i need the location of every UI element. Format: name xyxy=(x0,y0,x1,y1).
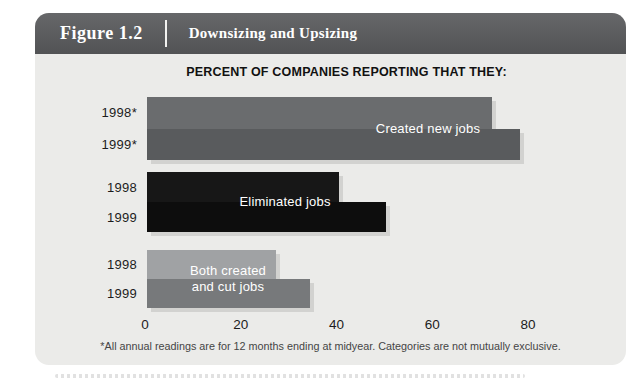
year-label: 1999* xyxy=(57,137,137,152)
series-label: Eliminated jobs xyxy=(239,194,330,210)
chart-footnote: *All annual readings are for 12 months e… xyxy=(35,340,626,352)
year-label: 1998 xyxy=(57,180,137,195)
page: Figure 1.2 Downsizing and Upsizing PERCE… xyxy=(0,0,635,381)
bar-group: 19981999Eliminated jobs xyxy=(35,172,626,232)
x-tick-label: 0 xyxy=(141,317,149,332)
x-tick-label: 60 xyxy=(425,317,440,332)
bar-row: 1998* xyxy=(35,97,626,129)
x-tick-label: 80 xyxy=(520,317,535,332)
x-tick-label: 40 xyxy=(329,317,344,332)
year-label: 1998* xyxy=(57,105,137,120)
bar-row: 1998 xyxy=(35,250,626,279)
year-label: 1998 xyxy=(57,257,137,272)
x-tick-label: 20 xyxy=(233,317,248,332)
bar-row: 1999 xyxy=(35,279,626,308)
figure-panel: Figure 1.2 Downsizing and Upsizing PERCE… xyxy=(35,13,626,365)
year-label: 1999 xyxy=(57,210,137,225)
year-label: 1999 xyxy=(57,286,137,301)
bar-chart: 020406080 1998*1999*Created new jobs1998… xyxy=(35,13,626,365)
cropped-source-text xyxy=(55,374,525,378)
bar-row: 1999* xyxy=(35,129,626,161)
series-label: Created new jobs xyxy=(376,121,480,137)
series-label: Both createdand cut jobs xyxy=(190,263,266,295)
bar-group: 1998*1999*Created new jobs xyxy=(35,97,626,160)
x-axis: 020406080 xyxy=(35,317,626,333)
bar-group: 19981999Both createdand cut jobs xyxy=(35,250,626,308)
